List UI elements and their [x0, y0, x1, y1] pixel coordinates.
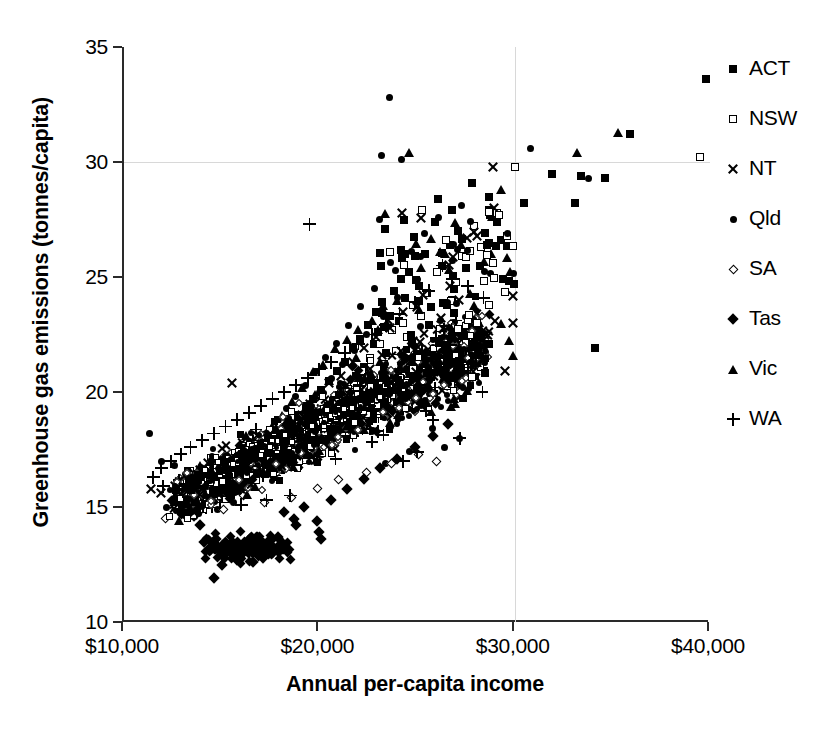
- data-point: [438, 374, 448, 383]
- data-point: [290, 428, 295, 433]
- data-point: [229, 464, 234, 469]
- data-point: [469, 350, 476, 357]
- data-point: [204, 485, 215, 496]
- data-point: [289, 430, 299, 439]
- data-point: [261, 451, 268, 458]
- legend-item-wa[interactable]: WA: [722, 408, 827, 458]
- data-point: [448, 206, 456, 214]
- data-point: [254, 538, 264, 548]
- data-point: [325, 420, 331, 426]
- data-point: [392, 453, 403, 464]
- data-point: [398, 376, 408, 385]
- data-point: [182, 479, 193, 490]
- data-point: [242, 447, 247, 452]
- data-point: [321, 413, 327, 419]
- legend-item-act[interactable]: ACT: [722, 58, 827, 108]
- data-point: [233, 460, 238, 465]
- legend-item-tas[interactable]: Tas: [722, 308, 827, 358]
- data-point: [198, 488, 209, 499]
- data-point: [205, 470, 211, 476]
- data-point: [396, 384, 402, 390]
- legend-item-vic[interactable]: Vic: [722, 358, 827, 408]
- data-point: [263, 441, 269, 447]
- data-point: [251, 454, 257, 460]
- data-point: [349, 412, 360, 423]
- data-point: [409, 363, 417, 371]
- data-point: [359, 474, 370, 485]
- data-point: [215, 474, 221, 480]
- data-point: [187, 475, 195, 483]
- data-point: [279, 545, 289, 555]
- data-point: [210, 476, 215, 481]
- data-point: [373, 398, 380, 405]
- data-point: [191, 497, 198, 504]
- data-point: [475, 340, 485, 349]
- data-point: [366, 403, 372, 409]
- data-point: [315, 391, 327, 403]
- data-point: [365, 402, 377, 414]
- data-point: [414, 406, 420, 412]
- data-point: [275, 436, 280, 441]
- data-point: [304, 421, 309, 426]
- data-point: [440, 381, 448, 389]
- legend-item-nt[interactable]: NT: [722, 158, 827, 208]
- data-point: [435, 214, 442, 221]
- data-point: [351, 408, 358, 415]
- data-point: [286, 440, 291, 445]
- data-point: [329, 404, 337, 412]
- legend-item-sa[interactable]: SA: [722, 258, 827, 308]
- data-point: [360, 406, 371, 417]
- data-point: [209, 477, 214, 482]
- data-point: [236, 452, 241, 457]
- data-point: [248, 469, 255, 476]
- data-point: [252, 464, 262, 474]
- data-point: [398, 381, 403, 386]
- data-point: [306, 400, 313, 407]
- data-point: [478, 353, 484, 359]
- data-point: [204, 477, 210, 483]
- data-point: [227, 471, 234, 478]
- data-point: [179, 488, 189, 497]
- data-point: [219, 465, 225, 471]
- data-point: [169, 480, 181, 492]
- data-point: [290, 436, 295, 441]
- data-point: [354, 380, 366, 392]
- data-point: [324, 417, 329, 422]
- data-point: [420, 352, 426, 358]
- data-point: [467, 376, 473, 382]
- data-point: [217, 480, 223, 486]
- data-point: [216, 462, 227, 473]
- data-point: [397, 382, 402, 387]
- data-point: [380, 390, 386, 396]
- data-point: [319, 414, 324, 419]
- legend-item-nsw[interactable]: NSW: [722, 108, 827, 158]
- legend-item-qld[interactable]: Qld: [722, 208, 827, 258]
- data-point: [179, 491, 189, 501]
- data-point: [239, 462, 245, 468]
- data-point: [267, 443, 275, 451]
- data-point: [190, 471, 197, 478]
- data-point: [239, 545, 249, 555]
- data-point: [307, 426, 312, 431]
- data-point: [418, 403, 424, 409]
- data-point: [421, 230, 428, 237]
- data-point: [374, 401, 384, 410]
- data-point: [180, 480, 188, 488]
- data-point: [376, 391, 381, 396]
- data-point: [468, 327, 476, 335]
- data-point: [366, 396, 372, 402]
- data-point: [230, 468, 236, 474]
- data-point: [287, 493, 297, 503]
- data-point: [467, 382, 474, 389]
- data-point: [392, 385, 397, 390]
- data-point: [353, 384, 360, 391]
- data-point: [285, 419, 297, 431]
- data-point: [400, 398, 411, 409]
- data-point: [235, 498, 248, 511]
- data-point: [235, 478, 245, 487]
- data-point: [366, 393, 372, 399]
- data-point: [372, 392, 378, 398]
- data-point: [427, 389, 434, 396]
- data-point: [406, 388, 416, 398]
- data-point: [322, 411, 327, 416]
